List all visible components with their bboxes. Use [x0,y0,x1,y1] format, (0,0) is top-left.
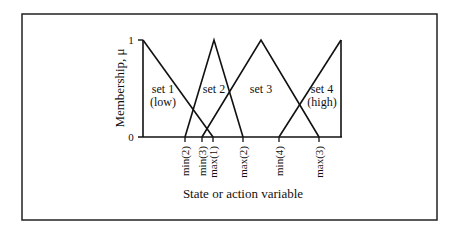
set-4-label: set 4 [311,82,333,96]
y-tick-label-0: 0 [128,131,134,143]
set-2-label: set 2 [203,82,225,96]
set-1-sublabel: (low) [150,95,176,109]
fuzzy-membership-diagram: 1 0 Membership, μ min(2) min(3) max(1) m… [0,0,458,230]
x-tick-label-max1: max(1) [207,146,220,178]
x-tick-label-max3: max(3) [313,146,326,178]
x-tick-label-min4: min(4) [273,146,286,176]
x-tick-label-max2: max(2) [237,146,250,178]
x-axis-label: State or action variable [183,186,303,201]
y-axis-label: Membership, μ [112,48,127,127]
x-tick-label-min2: min(2) [179,146,192,176]
set-4-sublabel: (high) [307,95,336,109]
y-tick-label-1: 1 [128,34,134,46]
set-3-label: set 3 [250,82,272,96]
set-1-label: set 1 [152,82,174,96]
